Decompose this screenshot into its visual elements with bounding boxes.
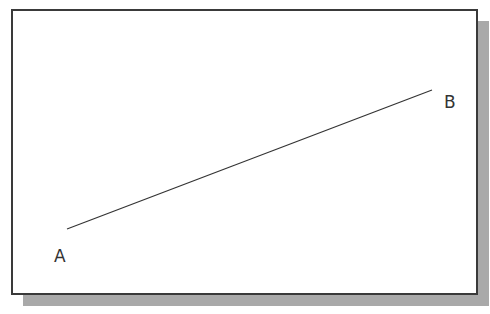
drawing-canvas: A B [0, 0, 490, 314]
line-segment-ab [67, 90, 432, 229]
point-label-b: B [444, 92, 456, 112]
point-label-a: A [54, 246, 66, 266]
